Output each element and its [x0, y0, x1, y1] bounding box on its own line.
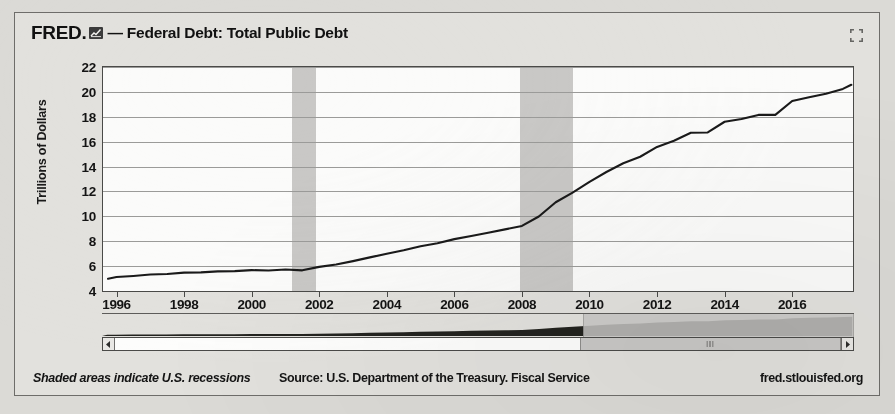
series-line	[103, 67, 853, 291]
arrow-left-icon[interactable]	[103, 338, 115, 350]
y-axis-tick-label: 8	[66, 234, 96, 249]
chart-plot-area: Trillions of Dollars 46810121416182022 1…	[15, 13, 881, 397]
x-axis-tick-mark	[454, 292, 455, 297]
x-axis-tick-mark	[117, 292, 118, 297]
x-axis-tick-mark	[252, 292, 253, 297]
minimap-handle-right[interactable]	[853, 314, 854, 337]
fred-url-label[interactable]: fred.stlouisfed.org	[760, 371, 863, 385]
x-axis-tick-label: 2004	[373, 297, 401, 312]
x-axis-tick-mark	[319, 292, 320, 297]
x-axis-tick-label: 2008	[508, 297, 536, 312]
y-axis-tick-label: 22	[66, 60, 96, 75]
y-axis-tick-label: 14	[66, 159, 96, 174]
x-axis-tick-label: 2014	[710, 297, 738, 312]
range-minimap[interactable]	[102, 313, 854, 337]
scrollbar-thumb[interactable]	[580, 338, 841, 350]
x-axis-tick-label: 1998	[170, 297, 198, 312]
y-axis-tick-label: 12	[66, 184, 96, 199]
x-axis-tick-mark	[184, 292, 185, 297]
y-axis-tick-labels: 46810121416182022	[62, 66, 96, 292]
y-axis-tick-label: 10	[66, 209, 96, 224]
y-axis-tick-label: 18	[66, 109, 96, 124]
scroll-thumb-grip-icon	[707, 341, 714, 347]
x-axis-tick-label: 1996	[102, 297, 130, 312]
data-source-label: Source: U.S. Department of the Treasury.…	[279, 371, 590, 385]
range-scrollbar[interactable]	[102, 337, 854, 351]
x-axis-tick-mark	[522, 292, 523, 297]
minimap-selection-window[interactable]	[583, 314, 854, 337]
plot-canvas[interactable]	[102, 66, 854, 292]
x-axis-tick-label: 2002	[305, 297, 333, 312]
x-axis-tick-label: 2016	[778, 297, 806, 312]
recession-legend-note: Shaded areas indicate U.S. recessions	[33, 371, 250, 385]
y-axis-tick-label: 20	[66, 84, 96, 99]
x-axis-tick-label: 2000	[237, 297, 265, 312]
x-axis-tick-label: 2010	[575, 297, 603, 312]
y-axis-tick-label: 6	[66, 259, 96, 274]
chart-footer: Shaded areas indicate U.S. recessions So…	[33, 368, 865, 388]
y-axis-tick-label: 16	[66, 134, 96, 149]
minimap-handle-left[interactable]	[583, 314, 584, 337]
y-axis-tick-label: 4	[66, 284, 96, 299]
screenshot-root: FRED. — Federal Debt: Total Public Debt	[0, 0, 895, 414]
x-axis-tick-label: 2006	[440, 297, 468, 312]
x-axis-tick-mark	[792, 292, 793, 297]
arrow-right-icon[interactable]	[841, 338, 853, 350]
x-axis-tick-mark	[657, 292, 658, 297]
x-axis-tick-mark	[725, 292, 726, 297]
y-axis-title: Trillions of Dollars	[35, 82, 49, 222]
x-axis-tick-mark	[589, 292, 590, 297]
fred-chart-card: FRED. — Federal Debt: Total Public Debt	[14, 12, 880, 396]
scrollbar-track[interactable]	[115, 338, 841, 350]
x-axis-tick-label: 2012	[643, 297, 671, 312]
x-axis-tick-mark	[387, 292, 388, 297]
